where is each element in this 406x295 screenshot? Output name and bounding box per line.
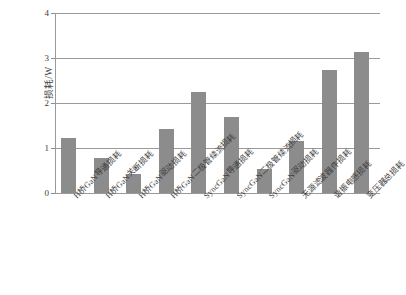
y-axis-tick-label: 4 [45, 9, 50, 18]
bar [61, 138, 76, 193]
x-axis-labels: H桥GaN导通损耗H桥GaN关断损耗H桥GaN驱动损耗H桥GaN二极管续流损耗S… [55, 194, 393, 295]
y-axis-tick-label: 3 [45, 54, 50, 63]
y-axis-tick-label: 2 [45, 99, 50, 108]
y-axis-tick-label: 0 [45, 189, 50, 198]
y-axis-tick-label: 1 [45, 144, 50, 153]
